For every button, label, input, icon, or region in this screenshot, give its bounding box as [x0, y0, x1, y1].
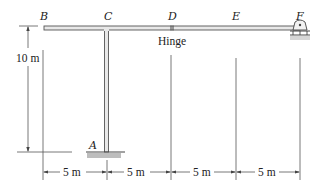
- hinge-label: Hinge: [158, 35, 186, 48]
- label-point-b: B: [39, 10, 48, 23]
- beam-bf: [44, 26, 300, 30]
- frame-diagram: B C D E F A Hinge 10 m: [0, 0, 322, 190]
- height-dimension: [17, 26, 72, 152]
- label-point-f: F: [295, 10, 304, 23]
- span-dimension-label-bc: 5 m: [63, 166, 81, 178]
- label-point-d: D: [167, 10, 177, 23]
- height-dimension-label: 10 m: [16, 52, 39, 64]
- span-dimension-label-ef: 5 m: [258, 166, 276, 178]
- label-point-a: A: [88, 139, 97, 152]
- span-dimension-label-de: 5 m: [193, 166, 211, 178]
- span-dimension-label-cd: 5 m: [127, 166, 145, 178]
- fixed-support-icon: [86, 152, 125, 158]
- label-point-c: C: [104, 10, 113, 23]
- label-point-e: E: [231, 10, 240, 23]
- roller-support-icon: [290, 20, 310, 40]
- extension-lines: [43, 50, 300, 180]
- column-ca: [104, 28, 109, 152]
